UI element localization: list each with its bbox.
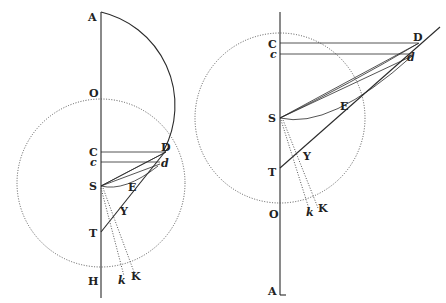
- left-label-S: S: [89, 180, 97, 193]
- right-label-d: d: [407, 51, 415, 64]
- left-dotted-SK: [103, 188, 134, 272]
- left-dotted-Sk: [101, 188, 124, 276]
- right-label-K: K: [318, 202, 328, 215]
- right-label-E: E: [340, 100, 348, 113]
- right-figure: C c D d S E Y T O k K A: [195, 12, 440, 298]
- left-label-K: K: [131, 270, 141, 283]
- right-label-Y: Y: [302, 150, 311, 163]
- left-label-d: d: [161, 157, 169, 170]
- left-label-A: A: [87, 11, 97, 24]
- left-label-D: D: [161, 141, 171, 154]
- right-dotted-Sk: [281, 120, 310, 212]
- left-label-O: O: [89, 87, 99, 100]
- right-label-O: O: [269, 208, 279, 221]
- right-label-S: S: [268, 112, 276, 125]
- right-label-k: k: [306, 206, 314, 219]
- left-label-T: T: [89, 227, 98, 240]
- left-semicircle: [101, 12, 175, 150]
- right-label-A: A: [267, 285, 277, 298]
- geometry-diagram: A O C c D d S E Y T H k K C c D d S E: [0, 0, 446, 303]
- left-figure: A O C c D d S E Y T H k K: [17, 11, 185, 298]
- right-label-T: T: [268, 166, 277, 179]
- left-label-H: H: [88, 275, 98, 288]
- left-label-k: k: [118, 274, 126, 287]
- left-label-Y: Y: [119, 205, 128, 218]
- right-label-c: c: [270, 48, 277, 61]
- left-label-E: E: [128, 181, 136, 194]
- left-label-c: c: [90, 156, 97, 169]
- right-label-D: D: [413, 31, 423, 44]
- right-dotted-SK: [283, 120, 318, 208]
